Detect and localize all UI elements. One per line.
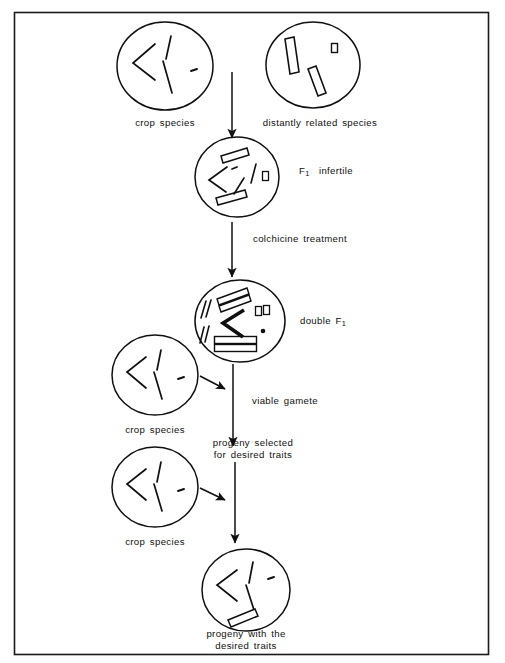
chromosome-square-hollow [332,44,338,53]
chromosome-square-hollow [263,172,269,181]
label-viable-gamete: viable gamete [252,395,318,407]
chromosome-dot-thin [178,377,184,379]
label-progeny-with-line2: desired traits [206,640,285,652]
cell-crop-species-lower [112,447,198,527]
label-crop-species-lower: crop species [125,536,185,548]
label-progeny-selected-line1: progeny selected [213,437,293,449]
cell-distantly-related-species [266,22,360,108]
chromosome-square-hollow-doubled [256,306,270,316]
wide-hybridization-diagram [0,0,505,663]
cell-crop-species-mid [112,335,198,415]
label-progeny-selected-line2: for desired traits [213,449,293,461]
chromosome-rod-hollow-doubled-lower [215,337,257,352]
arrow-backcross-join [200,488,225,500]
chromosome-bent-thin [133,44,155,80]
chromosome-rod-thin-lower [154,484,162,511]
label-f1-infertile-word: infertile [319,165,353,176]
chromosome-rod-hollow-left [285,37,299,74]
chromosome-rod-hollow-center [308,66,326,96]
label-progeny-with-line1: progeny with the [206,628,285,640]
chromosome-rod-hollow-upper [221,148,249,163]
chromosome-rod-thin-doubled-lower [200,326,209,343]
label-double-f1: double F1 [300,315,346,328]
chromosome-dot-thin [268,577,274,579]
chromosome-bent-thin [217,570,237,601]
label-colchicine-treatment: colchicine treatment [253,233,347,245]
chromosome-rod-thin-lower [154,372,162,399]
label-crop-species-mid: crop species [125,424,185,436]
chromosome-dot-thin [232,167,237,169]
label-f1-infertile-subscript: 1 [305,169,309,178]
chromosome-rod-thin-upper [166,36,171,59]
chromosome-rod-thin [251,164,256,183]
chromosome-rod-hollow-doubled-upper [217,288,251,312]
arrow-viable-gamete-join [200,376,225,389]
chromosome-rod-thin-doubled-upper [201,300,211,318]
label-progeny-selected: progeny selected for desired traits [213,437,293,461]
label-double-f1-subscript: 1 [342,319,346,328]
figure-root: crop species distantly related species F… [0,0,505,663]
label-crop-species-top: crop species [135,117,195,129]
chromosome-rod-thin-upper [249,562,253,583]
chromosome-dot-thin [191,69,197,71]
label-progeny-with-desired-traits: progeny with the desired traits [206,628,285,652]
chromosome-rod-hollow-lower [216,190,247,205]
label-distantly-related-species: distantly related species [263,117,377,129]
chromosome-bent-doubled [223,310,244,337]
label-f1-infertile: F1 infertile [299,165,353,178]
chromosome-rod-thin-upper [157,350,161,370]
label-double-f1-text: double F [300,315,342,326]
cell-crop-species-top [117,22,213,110]
chromosome-rod-thin-lower [163,61,172,93]
chromosome-bent-thin [127,357,146,388]
chromosome-rod-thin-upper [157,462,161,482]
chromosome-rod-hollow-introgressed [228,609,258,627]
cell-f1-infertile [195,137,279,217]
cell-membrane [266,22,360,108]
cell-progeny-desired-traits [202,549,290,631]
cell-double-f1 [195,280,285,362]
chromosome-rod-thin-lower [246,585,254,610]
chromosome-bent-thin [127,469,146,500]
chromosome-dot-thin [178,489,184,491]
chromosome-bent-thin [209,167,227,192]
chromosome-dot-doubled [261,329,266,334]
figure-frame [15,13,489,655]
